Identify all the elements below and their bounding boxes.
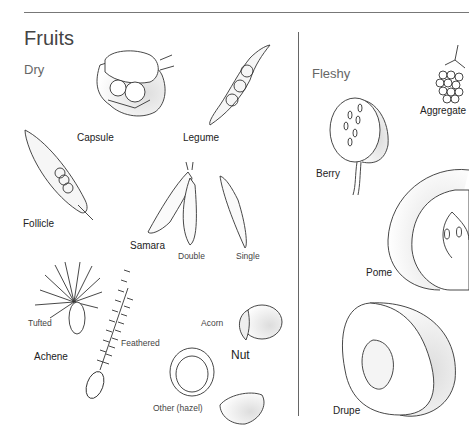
label-berry: Berry xyxy=(316,168,340,179)
label-nut-acorn: Acorn xyxy=(201,318,223,328)
label-pome: Pome xyxy=(366,267,392,278)
label-achene-feathered: Feathered xyxy=(121,338,160,348)
label-samara-double: Double xyxy=(178,251,205,261)
berry-illustration xyxy=(330,98,388,195)
label-capsule: Capsule xyxy=(77,132,114,143)
label-achene: Achene xyxy=(34,351,68,362)
label-nut: Nut xyxy=(231,348,250,362)
label-achene-tufted: Tufted xyxy=(28,318,52,328)
drupe-illustration xyxy=(342,303,455,416)
achene-feathered-illustration xyxy=(83,270,133,401)
capsule-illustration xyxy=(97,51,174,116)
label-nut-other: Other (hazel) xyxy=(153,403,203,413)
acorn-illustration xyxy=(239,305,282,340)
label-samara-single: Single xyxy=(236,251,260,261)
label-aggregate: Aggregate xyxy=(420,105,466,116)
samara-single-illustration xyxy=(220,176,246,248)
legume-illustration xyxy=(210,45,270,125)
samara-double-illustration xyxy=(148,162,196,245)
label-legume: Legume xyxy=(183,132,219,143)
label-samara: Samara xyxy=(130,240,165,251)
follicle-illustration xyxy=(25,130,93,220)
label-follicle: Follicle xyxy=(23,218,54,229)
fruit-illustrations xyxy=(0,0,469,436)
pome-illustration xyxy=(388,169,469,290)
label-drupe: Drupe xyxy=(333,405,360,416)
aggregate-illustration xyxy=(436,45,465,103)
